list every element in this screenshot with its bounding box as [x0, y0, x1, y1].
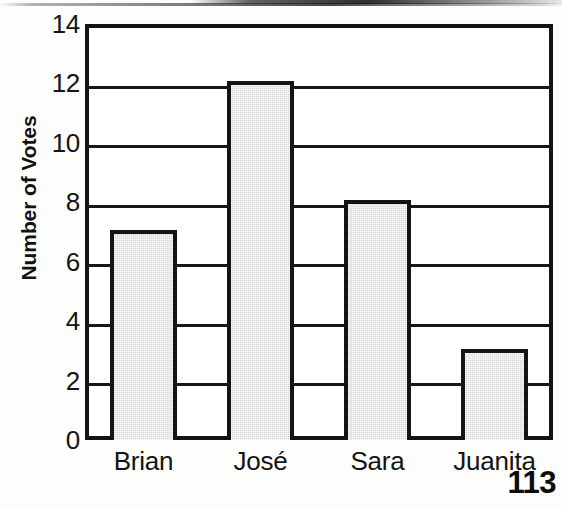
- y-tick-label-12: 12: [34, 70, 80, 96]
- y-tick-label-10: 10: [34, 130, 80, 156]
- scan-artifact-streak-secondary: [190, 0, 562, 4]
- page-number: 113: [507, 465, 556, 501]
- y-tick-label-4: 4: [34, 308, 80, 334]
- y-tick-label-8: 8: [34, 189, 80, 215]
- bar-josé: [227, 81, 294, 440]
- y-tick-label-2: 2: [34, 368, 80, 394]
- x-label-brian: Brian: [85, 448, 202, 474]
- bar-juanita: [461, 349, 528, 440]
- y-tick-label-0: 0: [34, 427, 80, 453]
- x-axis-category-labels: BrianJoséSaraJuanita: [85, 448, 553, 484]
- y-axis-tick-labels: 02468101214: [20, 24, 80, 440]
- x-label-sara: Sara: [319, 448, 436, 474]
- bar-sara: [344, 200, 411, 440]
- chart-page: Number of Votes 02468101214 BrianJoséSar…: [0, 0, 562, 508]
- bar-brian: [110, 230, 177, 440]
- y-tick-label-14: 14: [34, 11, 80, 37]
- bar-series: [85, 24, 553, 440]
- x-label-josé: José: [202, 448, 319, 474]
- y-tick-label-6: 6: [34, 249, 80, 275]
